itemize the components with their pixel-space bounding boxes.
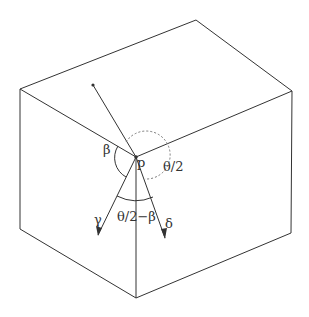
label-p: p	[137, 156, 145, 169]
label-theta-half-minus-beta: θ/2−β	[117, 210, 156, 223]
label-gamma: γ	[94, 213, 102, 226]
bottom-left-edge	[20, 229, 136, 298]
label-beta: β	[103, 143, 111, 156]
box-diagram	[0, 0, 309, 317]
bottom-right-edge	[136, 233, 291, 298]
top-face	[20, 20, 292, 157]
inner-point	[91, 83, 94, 86]
right-edge	[291, 91, 292, 233]
incoming-ray	[93, 85, 136, 157]
diagram-canvas: β p θ/2 γ θ/2−β δ	[0, 0, 309, 317]
label-theta-half: θ/2	[163, 160, 183, 173]
lower-arc	[117, 196, 153, 201]
label-delta: δ	[165, 217, 173, 230]
